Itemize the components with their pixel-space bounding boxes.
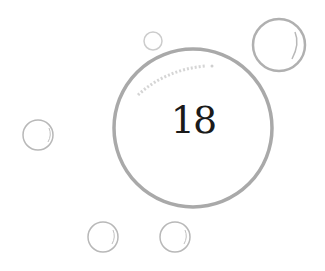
- bubble-icon: [23, 120, 53, 150]
- bubble-icon: [253, 19, 305, 71]
- badge-number: 18: [153, 98, 233, 142]
- bubble-icon: [88, 222, 118, 252]
- bubble-icon: [144, 32, 162, 50]
- bubble-icon: [160, 222, 190, 252]
